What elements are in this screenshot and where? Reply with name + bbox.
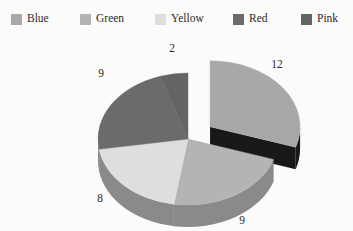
legend-item-yellow[interactable]: Yellow	[155, 9, 204, 29]
legend-item-pink[interactable]: Pink	[301, 9, 338, 29]
legend-label-green: Green	[96, 13, 124, 25]
legend-swatch-red	[233, 14, 244, 25]
legend-label-blue: Blue	[27, 13, 49, 25]
pie-chart: 129892	[0, 36, 353, 231]
pie-label-green: 9	[239, 215, 245, 227]
legend-item-green[interactable]: Green	[80, 9, 124, 29]
pie-label-blue: 12	[271, 59, 283, 71]
pie-label-red: 9	[98, 68, 104, 80]
legend-label-yellow: Yellow	[171, 13, 204, 25]
pie-label-yellow: 8	[97, 193, 103, 205]
legend-item-blue[interactable]: Blue	[11, 9, 49, 29]
legend-swatch-green	[80, 14, 91, 25]
legend-swatch-blue	[11, 14, 22, 25]
legend-label-red: Red	[249, 13, 268, 25]
pie-chart-svg	[0, 36, 353, 231]
legend-swatch-yellow	[155, 14, 166, 25]
pie-label-pink: 2	[169, 43, 175, 55]
legend-swatch-pink	[301, 14, 312, 25]
legend-label-pink: Pink	[317, 13, 338, 25]
chart-legend: Blue Green Yellow Red Pink	[0, 9, 353, 29]
legend-item-red[interactable]: Red	[233, 9, 268, 29]
